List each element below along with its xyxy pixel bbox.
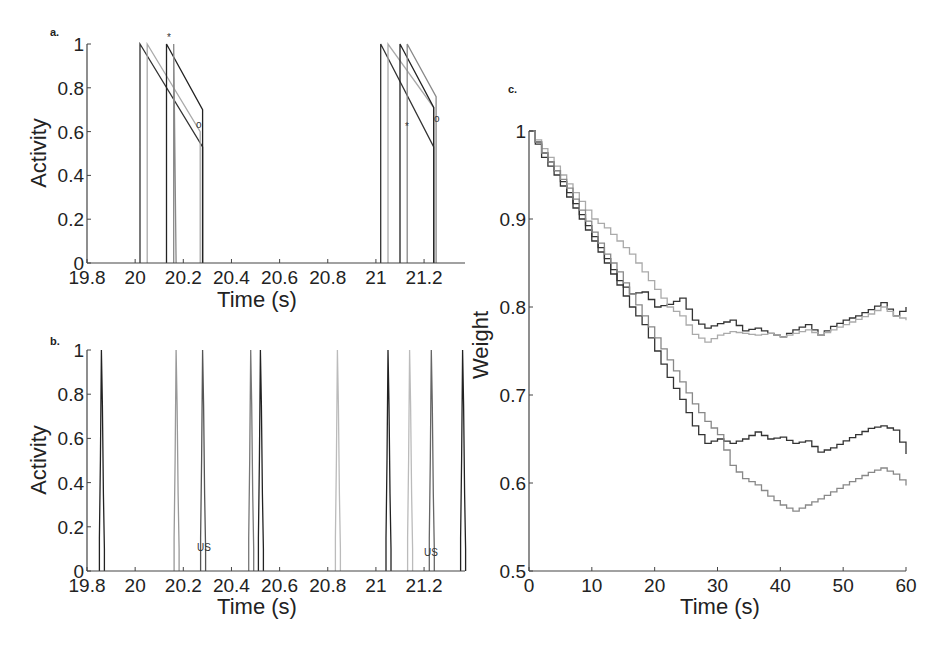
- y-tick-label: 0.4: [58, 473, 85, 494]
- panel-a-star-annotation: *: [167, 32, 171, 43]
- panel-b-us-annotation-2: US: [424, 547, 438, 558]
- y-tick-label: 1: [515, 121, 526, 142]
- x-tick-label: 20.4: [213, 267, 250, 288]
- spike-trace: [249, 350, 254, 571]
- y-tick-label: 1: [73, 34, 84, 55]
- panel-c-chart: c. 01020304050600.50.60.70.80.91 Time (s…: [468, 83, 917, 619]
- x-tick-label: 20.2: [165, 575, 202, 596]
- panel-b-chart: b. 19.82020.220.420.620.82121.200.20.40.…: [26, 335, 466, 619]
- panel-c-plot-area: [529, 131, 906, 511]
- weight-trace: [529, 131, 906, 454]
- y-tick-label: 0.8: [58, 78, 84, 99]
- spike-trace: [386, 350, 391, 571]
- y-tick-label: 0.4: [58, 165, 85, 186]
- x-tick-label: 20.8: [309, 575, 346, 596]
- weight-trace: [529, 131, 906, 337]
- y-tick-label: 0.9: [500, 209, 526, 230]
- activity-trace: [167, 44, 203, 263]
- x-tick-label: 20.2: [165, 267, 202, 288]
- weight-trace: [529, 131, 906, 511]
- panel-c-axes: 01020304050600.50.60.70.80.91: [500, 121, 917, 596]
- spike-trace: [408, 350, 413, 571]
- x-tick-label: 21.2: [406, 267, 443, 288]
- panel-a-xlabel: Time (s): [217, 287, 297, 312]
- panel-b-plot-area: [99, 350, 465, 571]
- y-tick-label: 0.6: [500, 473, 526, 494]
- activity-trace: [140, 44, 203, 263]
- panel-b-us-annotation: US: [197, 542, 211, 553]
- y-tick-label: 0.5: [500, 561, 526, 582]
- activity-trace: [388, 44, 434, 263]
- y-tick-label: 0.2: [58, 209, 84, 230]
- spike-trace: [461, 350, 466, 571]
- x-tick-label: 10: [581, 575, 602, 596]
- spike-trace: [201, 350, 206, 571]
- panel-c-ylabel: Weight: [468, 311, 493, 379]
- y-tick-label: 0.2: [58, 517, 84, 538]
- y-tick-label: 0.8: [58, 384, 84, 405]
- panel-c-xlabel: Time (s): [680, 594, 760, 619]
- activity-trace: [400, 44, 434, 263]
- y-tick-label: 0.6: [58, 122, 84, 143]
- x-tick-label: 21: [365, 267, 386, 288]
- panel-a-o-annotation-2: o: [434, 113, 440, 124]
- weight-trace: [529, 131, 906, 342]
- activity-trace: [174, 44, 176, 263]
- y-tick-label: 1: [73, 340, 84, 361]
- panel-b-xlabel: Time (s): [217, 594, 297, 619]
- spike-trace: [335, 350, 340, 571]
- x-tick-label: 20.4: [213, 575, 250, 596]
- x-tick-label: 20.6: [261, 575, 298, 596]
- panel-b-ylabel: Activity: [26, 425, 51, 495]
- panel-b-label: b.: [50, 335, 60, 347]
- spike-trace: [429, 350, 434, 571]
- panel-a-star-annotation-2: *: [405, 121, 409, 132]
- x-tick-label: 21: [365, 575, 386, 596]
- y-tick-label: 0: [73, 561, 84, 582]
- x-tick-label: 20: [125, 267, 146, 288]
- x-tick-label: 60: [895, 575, 916, 596]
- y-tick-label: 0.6: [58, 428, 84, 449]
- figure: a. 19.82020.220.420.620.82121.200.20.40.…: [0, 0, 935, 645]
- x-tick-label: 30: [707, 575, 728, 596]
- y-tick-label: 0: [73, 253, 84, 274]
- x-tick-label: 20: [644, 575, 665, 596]
- panel-a-ylabel: Activity: [26, 118, 51, 188]
- y-tick-label: 0.7: [500, 385, 526, 406]
- panel-a-o-annotation: o: [196, 119, 202, 130]
- panel-a-chart: a. 19.82020.220.420.620.82121.200.20.40.…: [26, 26, 465, 312]
- panel-a-axes: 19.82020.220.420.620.82121.200.20.40.60.…: [58, 34, 465, 288]
- x-tick-label: 21.2: [406, 575, 443, 596]
- panel-c-label: c.: [508, 83, 517, 95]
- panel-a-label: a.: [50, 26, 59, 38]
- panel-a-plot-area: [140, 44, 436, 263]
- x-tick-label: 20.8: [309, 267, 346, 288]
- spike-trace: [258, 350, 263, 571]
- x-tick-label: 40: [770, 575, 791, 596]
- x-tick-label: 20: [125, 575, 146, 596]
- y-tick-label: 0.8: [500, 297, 526, 318]
- x-tick-label: 20.6: [261, 267, 298, 288]
- spike-trace: [174, 350, 179, 571]
- x-tick-label: 50: [833, 575, 854, 596]
- spike-trace: [99, 350, 104, 571]
